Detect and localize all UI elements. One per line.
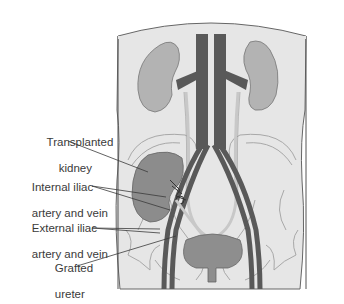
label-grafted-ureter-line2: ureter [55, 288, 85, 300]
vena-cava [214, 34, 226, 149]
label-grafted-ureter: Grafted ureter [42, 249, 82, 304]
kidney-transplant-diagram: Transplanted kidney Internal iliac arter… [0, 0, 344, 304]
label-external-iliac-line1: External iliac [32, 222, 97, 234]
aorta [196, 34, 208, 149]
label-grafted-ureter-line1: Grafted [55, 262, 93, 274]
label-transplanted-kidney-line1: Transplanted [47, 136, 114, 148]
label-internal-iliac-line1: Internal iliac [32, 181, 93, 193]
